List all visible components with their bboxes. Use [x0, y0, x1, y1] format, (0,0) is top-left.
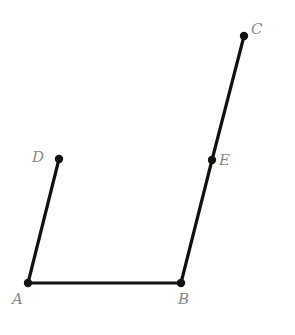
point-b: [177, 279, 185, 287]
point-a: [24, 279, 32, 287]
label-d: D: [32, 150, 44, 165]
segment-ec: [212, 36, 244, 160]
point-d: [55, 155, 63, 163]
geometry-diagram: [0, 0, 295, 335]
segment-ad: [28, 159, 59, 283]
label-b: B: [178, 292, 189, 307]
segment-be: [181, 160, 212, 283]
label-e: E: [219, 153, 230, 168]
point-c: [240, 32, 248, 40]
label-a: A: [12, 292, 23, 307]
label-c: C: [251, 22, 262, 37]
point-e: [208, 156, 216, 164]
